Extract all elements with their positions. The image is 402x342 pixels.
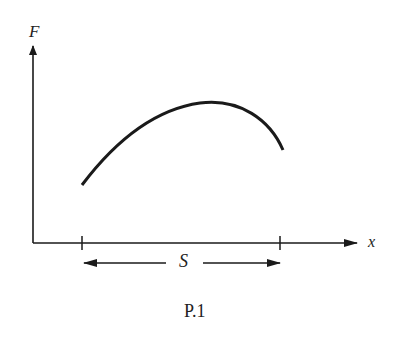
figure-caption: P.1 [184, 301, 206, 322]
force-curve [82, 102, 283, 185]
span-label: S [179, 251, 188, 272]
x-axis-label: x [368, 233, 375, 251]
force-diagram [0, 0, 402, 342]
y-axis-label: F [29, 22, 39, 42]
